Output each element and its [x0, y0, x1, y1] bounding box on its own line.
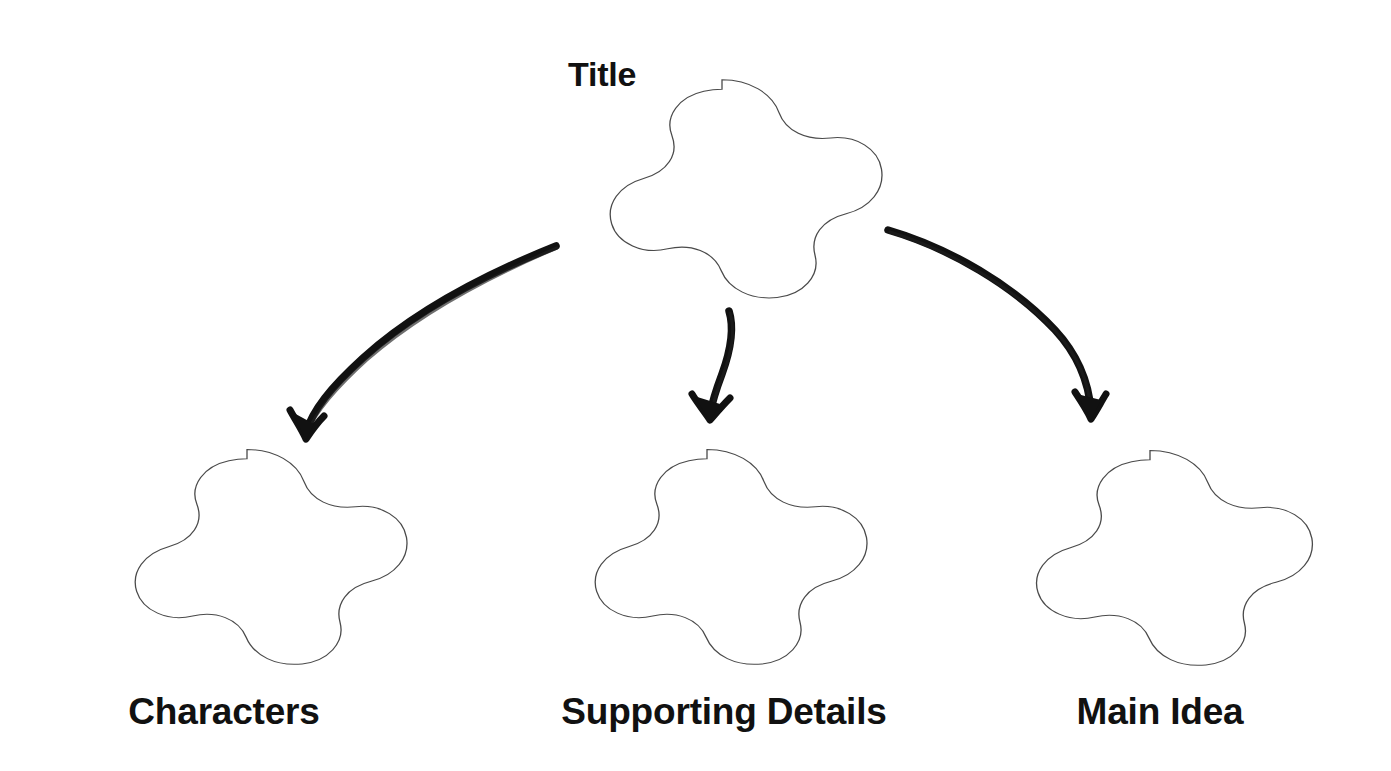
worksheet-canvas: Title Characters Supporting Details Main…	[0, 0, 1391, 771]
arrow-to-main-idea-icon	[888, 230, 1106, 420]
main-idea-label: Main Idea	[1077, 693, 1244, 730]
diagram-svg	[0, 0, 1391, 771]
title-label: Title	[568, 57, 636, 91]
node-shape-characters[interactable]	[135, 449, 407, 664]
node-shape-supporting-details[interactable]	[595, 449, 867, 664]
node-shape-title[interactable]	[610, 80, 882, 298]
arrow-to-supporting-details-icon	[692, 311, 733, 421]
node-shape-main-idea[interactable]	[1037, 450, 1313, 665]
supporting-details-label: Supporting Details	[561, 693, 886, 730]
characters-label: Characters	[128, 693, 319, 730]
arrow-to-characters-icon	[290, 246, 557, 440]
